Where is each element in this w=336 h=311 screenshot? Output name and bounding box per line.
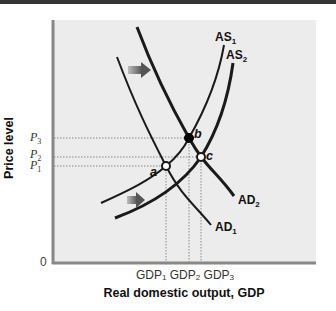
ad1-label-sub: 1 bbox=[232, 227, 236, 236]
ad2-label: AD2 bbox=[238, 193, 260, 209]
ad1-label: AD1 bbox=[215, 220, 237, 236]
origin-label: 0 bbox=[40, 255, 47, 269]
as2-label: AS2 bbox=[226, 48, 247, 64]
point-a-marker bbox=[162, 162, 170, 170]
tick-p3-sub: 3 bbox=[37, 137, 41, 146]
y-axis-label: Price level bbox=[2, 108, 18, 188]
tick-gdp3-base: GDP bbox=[204, 268, 230, 282]
x-axis-label: Real domestic output, GDP bbox=[52, 286, 316, 300]
tick-p1: P1 bbox=[30, 158, 41, 174]
point-b-label: b bbox=[194, 127, 202, 141]
ad1-label-base: AD bbox=[215, 220, 232, 234]
ad-as-diagram bbox=[0, 0, 336, 311]
tick-p1-sub: 1 bbox=[37, 165, 41, 174]
tick-gdp3: GDP3 bbox=[204, 268, 234, 282]
as1-label-sub: 1 bbox=[232, 37, 236, 46]
point-b-marker bbox=[185, 134, 194, 143]
tick-gdp3-sub: 3 bbox=[230, 273, 234, 282]
ad-shift-arrow-icon bbox=[128, 62, 151, 78]
axes bbox=[52, 20, 316, 264]
tick-gdp2-sub: 2 bbox=[196, 273, 200, 282]
tick-gdp1-sub: 1 bbox=[162, 273, 166, 282]
tick-gdp2: GDP2 bbox=[170, 268, 200, 282]
gdp-ticks: GDP1 GDP2 GDP3 bbox=[100, 268, 270, 282]
as2-label-base: AS bbox=[226, 48, 243, 62]
as1-label: AS1 bbox=[215, 30, 236, 46]
as1-label-base: AS bbox=[215, 30, 232, 44]
as1-curve bbox=[101, 45, 224, 203]
ad2-label-sub: 2 bbox=[255, 200, 259, 209]
tick-p3: P3 bbox=[30, 130, 41, 146]
point-c-marker bbox=[197, 153, 205, 161]
as2-curve bbox=[115, 63, 233, 218]
tick-gdp2-base: GDP bbox=[170, 268, 196, 282]
as2-label-sub: 2 bbox=[243, 55, 247, 64]
point-c-label: c bbox=[206, 149, 213, 163]
tick-gdp1-base: GDP bbox=[136, 268, 162, 282]
ad2-label-base: AD bbox=[238, 193, 255, 207]
point-a-label: a bbox=[150, 165, 157, 179]
tick-gdp1: GDP1 bbox=[136, 268, 166, 282]
